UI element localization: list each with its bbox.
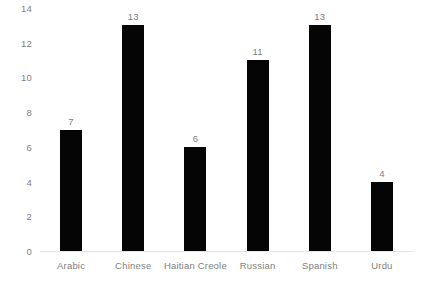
bar[interactable] bbox=[371, 182, 393, 251]
bar-value-label: 6 bbox=[193, 133, 198, 144]
x-axis: ArabicChineseHaitian CreoleRussianSpanis… bbox=[40, 252, 413, 285]
x-axis-tick-label: Russian bbox=[240, 260, 276, 271]
bar-slot: 13 bbox=[289, 8, 351, 251]
bar-slot: 7 bbox=[40, 8, 102, 251]
bar-value-label: 13 bbox=[314, 11, 325, 22]
y-axis-tick-label: 14 bbox=[21, 3, 32, 14]
bar[interactable] bbox=[247, 60, 269, 251]
bar-value-label: 13 bbox=[128, 11, 139, 22]
x-axis-tick-label: Haitian Creole bbox=[164, 260, 227, 271]
y-axis: 02468101214 bbox=[0, 0, 40, 285]
y-axis-tick-label: 10 bbox=[21, 72, 32, 83]
x-axis-tick-label: Arabic bbox=[57, 260, 85, 271]
bar-slot: 6 bbox=[164, 8, 226, 251]
y-axis-tick-label: 12 bbox=[21, 37, 32, 48]
bar-slot: 4 bbox=[351, 8, 413, 251]
bar[interactable] bbox=[309, 25, 331, 251]
y-axis-tick-label: 2 bbox=[27, 211, 32, 222]
bar-slot: 13 bbox=[102, 8, 164, 251]
y-axis-tick-label: 6 bbox=[27, 141, 32, 152]
x-axis-tick-label: Urdu bbox=[371, 260, 392, 271]
bar-value-label: 7 bbox=[68, 116, 73, 127]
x-axis-tick-label: Chinese bbox=[115, 260, 151, 271]
y-axis-tick-label: 8 bbox=[27, 107, 32, 118]
bar[interactable] bbox=[60, 130, 82, 252]
x-axis-tick-label: Spanish bbox=[302, 260, 338, 271]
bar-value-label: 4 bbox=[379, 168, 384, 179]
plot-area: 713611134 bbox=[40, 8, 413, 251]
bar-value-label: 11 bbox=[252, 46, 262, 57]
bar[interactable] bbox=[184, 147, 206, 251]
y-axis-tick-label: 0 bbox=[27, 246, 32, 257]
bar-chart: 02468101214 713611134 ArabicChineseHaiti… bbox=[0, 0, 421, 285]
bar[interactable] bbox=[122, 25, 144, 251]
bar-slot: 11 bbox=[227, 8, 289, 251]
y-axis-tick-label: 4 bbox=[27, 176, 32, 187]
